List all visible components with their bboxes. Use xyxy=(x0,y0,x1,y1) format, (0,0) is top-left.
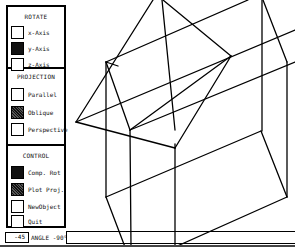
angle-value-field[interactable]: -45 xyxy=(5,232,29,243)
control-panel: ROTATE x-Axis y-Axis z-Axis PROJECTION P… xyxy=(6,5,66,228)
x-axis-label: x-Axis xyxy=(28,29,50,36)
checkbox-parallel[interactable] xyxy=(11,88,24,101)
checkbox-perspective[interactable] xyxy=(11,123,24,136)
rotate-y-axis-option[interactable]: y-Axis xyxy=(11,40,50,56)
checkbox-y-axis[interactable] xyxy=(11,42,24,55)
projection-perspective-option[interactable]: Perspective xyxy=(11,121,68,137)
projection-oblique-option[interactable]: Oblique xyxy=(11,104,53,120)
new-object-label: NewObject xyxy=(28,203,61,210)
control-plot-proj-option[interactable]: Plot Proj. xyxy=(11,181,64,197)
quit-label: Quit xyxy=(28,218,42,225)
control-comp-rot-option[interactable]: Comp. Rot xyxy=(11,164,61,180)
checkbox-quit[interactable] xyxy=(11,215,24,228)
comp-rot-label: Comp. Rot xyxy=(28,169,61,176)
control-new-object-option[interactable]: NewObject xyxy=(11,198,61,214)
projection-section: PROJECTION Parallel Oblique Perspective xyxy=(8,69,64,146)
rotate-title: ROTATE xyxy=(8,13,64,20)
y-axis-label: y-Axis xyxy=(28,45,50,52)
projection-parallel-option[interactable]: Parallel xyxy=(11,86,57,102)
control-title: CONTROL xyxy=(8,152,64,159)
rotate-x-axis-option[interactable]: x-Axis xyxy=(11,24,50,40)
control-section: CONTROL Comp. Rot Plot Proj. NewObject Q… xyxy=(8,146,64,228)
checkbox-plot-proj[interactable] xyxy=(11,183,24,196)
checkbox-comp-rot[interactable] xyxy=(11,166,24,179)
oblique-label: Oblique xyxy=(28,109,53,116)
control-quit-option[interactable]: Quit xyxy=(11,213,42,229)
perspective-label: Perspective xyxy=(28,126,68,133)
angle-slider[interactable] xyxy=(66,231,295,244)
checkbox-oblique[interactable] xyxy=(11,106,24,119)
rotate-section: ROTATE x-Axis y-Axis z-Axis xyxy=(8,7,64,69)
angle-label: ANGLE -90° xyxy=(31,234,67,241)
plot-proj-label: Plot Proj. xyxy=(28,186,64,193)
projection-title: PROJECTION xyxy=(8,73,64,80)
checkbox-x-axis[interactable] xyxy=(11,26,24,39)
checkbox-new-object[interactable] xyxy=(11,200,24,213)
parallel-label: Parallel xyxy=(28,91,57,98)
z-axis-label: z-Axis xyxy=(28,61,50,68)
